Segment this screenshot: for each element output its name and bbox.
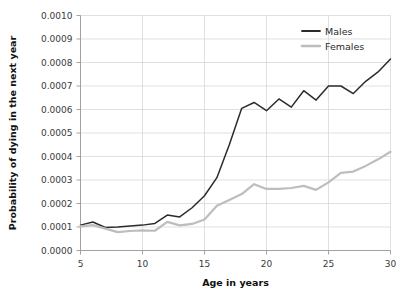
y-tick-label: 0.0004	[41, 152, 73, 162]
y-tick-label: 0.0001	[41, 222, 73, 232]
line-chart: 51015202530 0.00000.00010.00020.00030.00…	[0, 0, 416, 301]
y-tick-label: 0.0008	[41, 58, 73, 68]
y-tick-label: 0.0002	[41, 199, 73, 209]
y-tick-label: 0.0007	[41, 81, 73, 91]
y-tick-label: 0.0006	[41, 105, 73, 115]
y-tick-label: 0.0009	[41, 34, 73, 44]
y-tick-label: 0.0003	[41, 175, 73, 185]
x-axis-title: Age in years	[202, 277, 269, 288]
y-tick-label: 0.0010	[41, 11, 73, 21]
x-tick-label: 15	[199, 259, 210, 269]
x-tick-label: 20	[261, 259, 273, 269]
legend-label-males: Males	[325, 26, 353, 37]
chart-figure: 51015202530 0.00000.00010.00020.00030.00…	[0, 0, 416, 301]
x-tick-label: 25	[323, 259, 334, 269]
x-tick-label: 10	[137, 259, 149, 269]
y-tick-label: 0.0005	[41, 128, 73, 138]
legend-label-females: Females	[325, 41, 364, 52]
x-tick-label: 30	[385, 259, 397, 269]
y-tick-label: 0.0000	[41, 246, 73, 256]
y-axis-title: Probability of dying in the next year	[7, 36, 18, 231]
x-tick-label: 5	[78, 259, 84, 269]
